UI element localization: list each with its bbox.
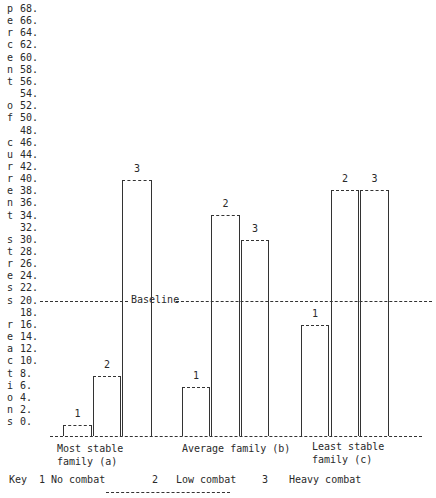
y-tick-label: 28.	[20, 246, 38, 257]
y-axis-title-letter: p	[7, 3, 15, 14]
y-axis-title-letter: t	[7, 368, 15, 379]
y-axis-title-letter: f	[7, 112, 15, 123]
legend-underline	[106, 492, 230, 493]
y-axis-title-letter: c	[7, 39, 15, 50]
bar-2-group-1	[211, 215, 240, 436]
y-tick-label: 50.	[20, 112, 38, 123]
bar-number-label: 2	[335, 173, 355, 184]
y-tick-label: 2.	[20, 404, 32, 415]
y-tick-label: 46.	[20, 137, 38, 148]
bar-number-label: 3	[127, 163, 147, 174]
legend-label-2: Low combat	[176, 474, 236, 485]
y-tick-label: 54.	[20, 88, 38, 99]
y-tick-label: 18.	[20, 307, 38, 318]
bar-number-label: 1	[305, 308, 325, 319]
y-tick-label: 48.	[20, 125, 38, 136]
y-axis-title-letter: r	[7, 173, 15, 184]
y-axis-title-letter: e	[7, 52, 15, 63]
bar-1-group-0	[63, 425, 92, 436]
y-axis-title-letter: n	[7, 64, 15, 75]
y-tick-label: 24.	[20, 270, 38, 281]
y-axis-title-letter: u	[7, 149, 15, 160]
y-axis-title-letter: e	[7, 270, 15, 281]
y-axis-title-letter: t	[7, 246, 15, 257]
y-tick-label: 10.	[20, 355, 38, 366]
y-tick-label: 40.	[20, 173, 38, 184]
y-tick-label: 60.	[20, 52, 38, 63]
bar-number-label: 2	[97, 359, 117, 370]
bar-number-label: 3	[245, 223, 265, 234]
y-tick-label: 16.	[20, 319, 38, 330]
bar-1-group-1	[182, 387, 210, 436]
y-tick-label: 0.	[20, 416, 32, 427]
y-tick-label: 68.	[20, 3, 38, 14]
y-axis-title-letter: r	[7, 161, 15, 172]
legend-num-1: 1	[39, 474, 45, 485]
y-axis-title-letter: r	[7, 319, 15, 330]
y-axis-title-letter: i	[7, 380, 15, 391]
y-axis-title-letter: r	[7, 27, 15, 38]
y-axis-title-letter: t	[7, 76, 15, 87]
y-axis-title-letter: c	[7, 137, 15, 148]
legend-num-3: 3	[262, 474, 268, 485]
y-axis-title-letter: r	[7, 258, 15, 269]
y-tick-label: 44.	[20, 149, 38, 160]
y-tick-label: 12.	[20, 343, 38, 354]
y-axis-title-letter: a	[7, 343, 15, 354]
y-axis-title-letter: t	[7, 210, 15, 221]
y-tick-label: 64.	[20, 27, 38, 38]
group-label-c: Least stable family (c)	[312, 440, 384, 466]
y-tick-label: 38.	[20, 185, 38, 196]
y-axis-title-letter: e	[7, 185, 15, 196]
y-axis-title-letter: n	[7, 197, 15, 208]
legend-num-2: 2	[152, 474, 158, 485]
y-axis-title-letter: s	[7, 416, 15, 427]
y-axis-title-letter: e	[7, 15, 15, 26]
y-tick-label: 42.	[20, 161, 38, 172]
y-tick-label: 26.	[20, 258, 38, 269]
bar-3-group-1	[241, 240, 269, 436]
bar-1-group-2	[301, 325, 329, 436]
bar-number-label: 2	[216, 198, 236, 209]
legend-label-1: No combat	[51, 474, 105, 485]
y-axis-title-letter: o	[7, 392, 15, 403]
y-axis-title-letter: n	[7, 404, 15, 415]
bar-3-group-0	[122, 180, 152, 436]
y-axis-title-letter: s	[7, 234, 15, 245]
bar-number-label: 3	[365, 173, 385, 184]
bar-3-group-2	[360, 190, 389, 436]
group-label-a: Most stable family (a)	[57, 442, 123, 468]
legend-title: Key	[9, 474, 27, 485]
y-tick-label: 56.	[20, 76, 38, 87]
y-tick-label: 66.	[20, 15, 38, 26]
baseline-line-left	[40, 301, 128, 302]
x-axis-line	[50, 436, 422, 437]
y-tick-label: 4.	[20, 392, 32, 403]
bar-number-label: 1	[186, 370, 206, 381]
y-axis-title-letter: o	[7, 100, 15, 111]
y-tick-label: 52.	[20, 100, 38, 111]
y-axis-title-letter: s	[7, 282, 15, 293]
y-axis-title-letter: s	[7, 295, 15, 306]
legend-label-3: Heavy combat	[289, 474, 361, 485]
y-tick-label: 32.	[20, 222, 38, 233]
y-tick-label: 22.	[20, 282, 38, 293]
y-tick-label: 14.	[20, 331, 38, 342]
y-tick-label: 8.	[20, 368, 32, 379]
y-tick-label: 34.	[20, 210, 38, 221]
bar-number-label: 1	[68, 408, 88, 419]
y-tick-label: 30.	[20, 234, 38, 245]
bar-2-group-2	[331, 190, 359, 436]
y-tick-label: 6.	[20, 380, 32, 391]
y-tick-label: 36.	[20, 197, 38, 208]
y-tick-label: 20.	[20, 295, 38, 306]
group-label-b: Average family (b)	[182, 442, 290, 455]
y-axis-title-letter: e	[7, 331, 15, 342]
y-tick-label: 62.	[20, 39, 38, 50]
y-axis-title-letter: c	[7, 355, 15, 366]
y-tick-label: 58.	[20, 64, 38, 75]
bar-2-group-0	[93, 376, 121, 436]
